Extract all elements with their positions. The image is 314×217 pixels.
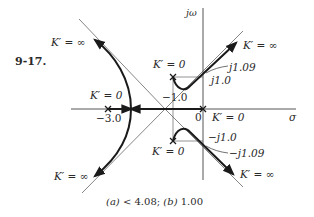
label-kinf-upper-right: K′ = ∞ [243,40,277,51]
asymptotes [79,19,243,193]
label-kinf-upper-left: K′ = ∞ [51,37,85,48]
label-k0-upper-pole: K′ = 0 [153,59,185,70]
origin-label: 0 [195,112,202,123]
root-locus-plot [0,0,314,217]
real-axis-label: σ [289,112,296,123]
label-negj10: −j1.0 [208,132,237,143]
caption-a-value: < 4.08; [123,196,160,207]
label-neg1: −1.0 [162,92,188,103]
label-kinf-lower-right: K′ = ∞ [240,169,274,180]
imag-axis-label: jω [186,8,197,18]
caption-a-label: (a) [106,196,120,207]
label-kinf-lower-left: K′ = ∞ [54,171,88,182]
label-k0-origin: K′ = 0 [212,112,244,123]
label-negj109: −j1.09 [229,148,264,159]
label-k0-left-pole: K′ = 0 [90,90,122,101]
label-k0-lower-pole: K′ = 0 [152,146,184,157]
caption-b-label: (b) [163,196,177,207]
caption-b-value: 1.00 [181,196,203,207]
label-neg3: −3.0 [96,113,122,124]
label-j10: j1.0 [211,75,231,86]
figure-caption: (a) < 4.08; (b) 1.00 [106,197,203,207]
root-locus-figure: 9-17. jω σ 0 K′ = ∞ K′ = 0 −3.0 −1.0 K′ … [0,0,314,217]
label-j109: j1.09 [229,62,256,73]
problem-number: 9-17. [15,56,46,67]
